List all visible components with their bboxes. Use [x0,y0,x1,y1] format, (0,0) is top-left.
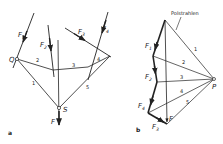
label-pole: P [212,83,217,91]
pole-ray-1 [165,20,214,79]
ray-label-1: 1 [194,46,197,52]
label-f4: F4 [102,25,109,34]
arrow-f3 [156,118,164,123]
label-s: S [63,106,68,114]
ray-label-2: 2 [182,59,185,65]
label-b-f3: F3 [152,123,159,132]
label-f3: F3 [78,28,85,37]
rope-label-5: 5 [86,84,89,90]
caption-b: b [136,126,141,133]
panel-a-lageplan [13,12,111,125]
label-resultant: F [51,118,56,126]
label-b-resultant: F [169,115,174,123]
force-arrow-f2 [50,38,52,51]
pole-ray-4 [148,79,214,113]
caption-a: a [8,129,12,136]
label-b-f1: F1 [145,42,152,51]
arrow-f1 [155,42,157,50]
rope-label-3: 3 [72,62,75,68]
annotation-polstrahlen: Polstrahlen [171,10,199,16]
rope-label-4: 4 [97,56,100,62]
pole-point [213,78,216,81]
label-b-f2: F2 [145,73,152,82]
point-s [57,106,60,109]
rope-label-2: 2 [36,57,39,63]
resultant-vector [165,20,167,122]
label-b-f4: F4 [138,102,145,111]
label-f1: F1 [18,31,25,40]
arrow-f2 [155,66,156,74]
pole-ray-3 [157,79,214,82]
rope-label-1: 1 [32,80,35,86]
force-vector-f1 [153,20,165,56]
annotation-leader [176,17,181,30]
panel-b-kraeftplan [148,17,216,124]
point-q [15,57,18,60]
ray-label-5: 5 [186,99,189,105]
rope-polygon [17,56,110,108]
funicular-polygon-diagram: F1 F2 F3 F4 Q S F 1 2 3 4 5 a [0,0,223,144]
label-f2: F2 [40,41,47,50]
label-q: Q [9,56,15,64]
ray-label-3: 3 [180,74,183,80]
ray-label-4: 4 [180,88,183,94]
pole-ray-5 [167,79,214,124]
